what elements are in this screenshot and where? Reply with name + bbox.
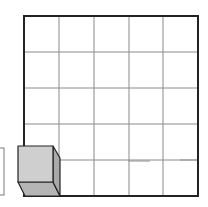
cube [18,146,60,196]
left-rectangle-fragment [0,148,4,195]
cube-front-face [18,146,53,182]
diagram-canvas [0,0,208,207]
